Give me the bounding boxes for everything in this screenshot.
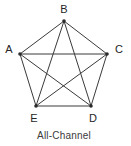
edge-c-e bbox=[36, 54, 107, 106]
edge-b-d bbox=[64, 21, 91, 106]
node-label-b: B bbox=[60, 3, 67, 15]
network-diagram: ABCDE All-Channel bbox=[0, 0, 131, 146]
edge-c-d bbox=[91, 54, 107, 106]
edge-b-c bbox=[64, 21, 107, 54]
edge-a-d bbox=[20, 54, 91, 106]
node-b bbox=[62, 19, 66, 23]
edge-e-a bbox=[20, 54, 36, 106]
edge-b-e bbox=[36, 21, 64, 106]
node-d bbox=[89, 104, 93, 108]
node-label-e: E bbox=[30, 112, 37, 124]
node-c bbox=[105, 52, 109, 56]
edge-a-b bbox=[20, 21, 64, 54]
node-label-a: A bbox=[5, 43, 13, 55]
edge-group bbox=[20, 21, 107, 106]
node-e bbox=[34, 104, 38, 108]
all-channel-network-figure: ABCDE All-Channel bbox=[0, 0, 131, 146]
node-label-c: C bbox=[115, 43, 123, 55]
node-a bbox=[18, 52, 22, 56]
node-label-d: D bbox=[89, 112, 97, 124]
figure-caption: All-Channel bbox=[37, 130, 91, 141]
node-group bbox=[18, 19, 109, 108]
